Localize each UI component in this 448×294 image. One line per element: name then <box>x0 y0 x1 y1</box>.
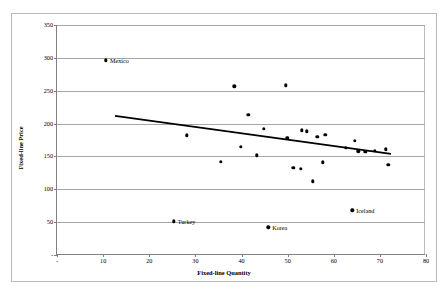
x-axis-tick-label: - <box>56 258 58 264</box>
x-axis-tick-label: 40 <box>238 258 244 264</box>
y-axis-tick-label: 350 <box>44 22 53 28</box>
datapoint-label-mexico: Mexico <box>110 58 129 64</box>
x-axis-tick-label: 50 <box>285 258 291 264</box>
x-axis-tick-label: 10 <box>100 258 106 264</box>
x-axis-tick-label: 80 <box>423 258 429 264</box>
x-axis-tick-label: 20 <box>146 258 152 264</box>
y-axis-tick-label: 150 <box>44 153 53 159</box>
datapoint-label-iceland: Iceland <box>356 208 374 214</box>
chart-frame: Fixed-line Price Fixed-line Quantity -50… <box>11 13 437 282</box>
chart-screenshot: Fixed-line Price Fixed-line Quantity -50… <box>0 0 448 294</box>
y-axis-tick-label: 50 <box>47 219 53 225</box>
y-axis-tick-label: 200 <box>44 121 53 127</box>
y-axis-tick-label: 300 <box>44 55 53 61</box>
x-axis-title: Fixed-line Quantity <box>197 269 250 276</box>
datapoint-label-korea: Korea <box>272 225 287 231</box>
plot-area: -50100150200250300350 -1020304050607080 … <box>56 25 425 255</box>
x-axis-tick-label: 70 <box>377 258 383 264</box>
y-axis-tick-label: - <box>51 252 53 258</box>
y-axis-tick-label: 250 <box>44 88 53 94</box>
datapoint-label-turkey: Turkey <box>178 219 196 225</box>
x-axis-tick-label: 60 <box>331 258 337 264</box>
x-axis-tick-label: 30 <box>192 258 198 264</box>
y-axis-tick-label: 100 <box>44 186 53 192</box>
y-axis-title: Fixed-line Price <box>17 126 24 169</box>
